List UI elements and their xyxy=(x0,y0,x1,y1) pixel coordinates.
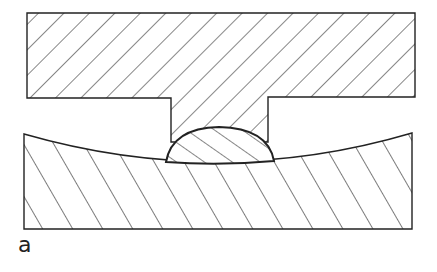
upper-plate xyxy=(27,13,415,142)
weld-cross-section-diagram xyxy=(0,0,437,272)
figure-label: a xyxy=(18,232,31,257)
